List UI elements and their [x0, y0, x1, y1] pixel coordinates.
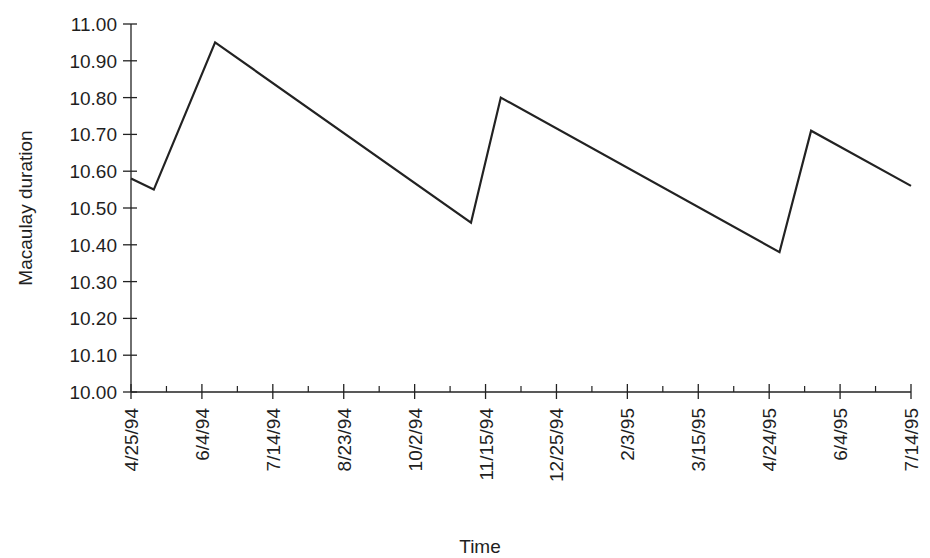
x-tick-label: 2/3/95 [617, 408, 638, 461]
x-tick-label: 4/24/95 [759, 408, 780, 471]
x-tick-label: 8/23/94 [334, 408, 355, 472]
y-axis-title: Macaulay duration [15, 130, 36, 285]
x-tick-label: 4/25/94 [121, 408, 142, 472]
y-tick-label: 10.80 [69, 88, 117, 109]
line-chart: 10.0010.1010.2010.3010.4010.5010.6010.70… [0, 0, 930, 558]
y-tick-label: 10.30 [69, 272, 117, 293]
y-tick-label: 10.90 [69, 51, 117, 72]
x-tick-label: 11/15/94 [476, 408, 497, 481]
y-tick-label: 10.70 [69, 124, 117, 145]
y-tick-label: 11.00 [71, 14, 117, 35]
y-axis: 10.0010.1010.2010.3010.4010.5010.6010.70… [69, 14, 137, 403]
x-tick-label: 3/15/95 [688, 408, 709, 471]
x-tick-label: 10/2/94 [405, 408, 426, 472]
duration-line [131, 42, 911, 252]
y-tick-label: 10.20 [69, 308, 117, 329]
y-tick-label: 10.40 [69, 235, 117, 256]
x-axis-title: Time [459, 536, 501, 557]
x-tick-label: 7/14/95 [901, 408, 922, 471]
x-tick-label: 12/25/94 [546, 408, 567, 482]
y-tick-label: 10.10 [69, 345, 117, 366]
y-tick-label: 10.50 [69, 198, 117, 219]
x-tick-label: 6/4/94 [192, 408, 213, 461]
y-tick-label: 10.00 [69, 382, 117, 403]
y-tick-label: 10.60 [69, 161, 117, 182]
x-tick-label: 6/4/95 [830, 408, 851, 461]
x-tick-label: 7/14/94 [263, 408, 284, 472]
x-axis: 4/25/946/4/947/14/948/23/9410/2/9411/15/… [121, 384, 922, 482]
